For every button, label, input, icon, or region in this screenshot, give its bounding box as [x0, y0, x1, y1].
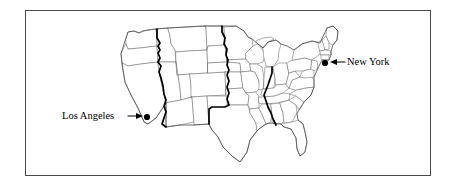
city-label-los-angeles: Los Angeles [62, 111, 114, 122]
arrow-head-new-york [330, 59, 337, 65]
marker-los-angeles [144, 114, 150, 120]
marker-new-york [322, 60, 328, 66]
city-label-new-york: New York [347, 57, 390, 68]
figure-canvas: New York Los Angeles [0, 0, 452, 190]
us-map-graphic [0, 0, 452, 190]
